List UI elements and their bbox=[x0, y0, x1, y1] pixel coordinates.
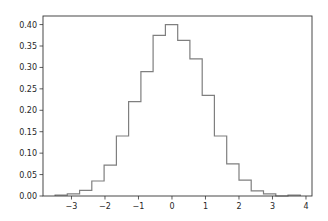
x-tick-label: 2 bbox=[236, 202, 241, 211]
x-tick-label: 0 bbox=[169, 202, 174, 211]
x-tick-label: 3 bbox=[270, 202, 275, 211]
x-tick-label: −3 bbox=[66, 202, 78, 211]
histogram-chart: −3−2−101234 0.000.050.100.150.200.250.30… bbox=[0, 0, 328, 221]
x-tick-label: −2 bbox=[99, 202, 111, 211]
x-axis: −3−2−101234 bbox=[66, 196, 309, 211]
y-tick-label: 0.05 bbox=[19, 171, 37, 180]
y-tick-label: 0.40 bbox=[19, 21, 37, 30]
y-tick-label: 0.00 bbox=[19, 192, 37, 201]
histogram-step-line bbox=[55, 25, 300, 196]
axes-frame bbox=[43, 16, 312, 196]
y-tick-label: 0.25 bbox=[19, 85, 37, 94]
y-tick-label: 0.20 bbox=[19, 106, 37, 115]
plot-area bbox=[43, 16, 312, 196]
y-tick-label: 0.10 bbox=[19, 149, 37, 158]
y-axis: 0.000.050.100.150.200.250.300.350.40 bbox=[19, 21, 43, 201]
x-tick-label: −1 bbox=[133, 202, 145, 211]
x-tick-label: 4 bbox=[303, 202, 308, 211]
x-tick-label: 1 bbox=[203, 202, 208, 211]
y-tick-label: 0.35 bbox=[19, 42, 37, 51]
y-tick-label: 0.30 bbox=[19, 63, 37, 72]
y-tick-label: 0.15 bbox=[19, 128, 37, 137]
